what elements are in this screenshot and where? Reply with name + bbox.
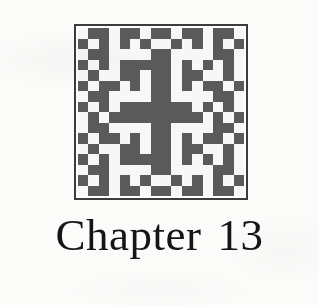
fractal-cell bbox=[88, 133, 98, 144]
fractal-cell bbox=[78, 144, 88, 155]
fractal-cell bbox=[99, 154, 109, 165]
fractal-cell bbox=[109, 165, 119, 176]
fractal-cell bbox=[223, 91, 233, 102]
fractal-cell bbox=[151, 81, 161, 92]
fractal-cell bbox=[192, 144, 202, 155]
fractal-cell bbox=[140, 91, 150, 102]
fractal-cell bbox=[213, 60, 223, 71]
fractal-cell bbox=[182, 39, 192, 50]
fractal-cell bbox=[109, 144, 119, 155]
fractal-cell bbox=[213, 49, 223, 60]
fractal-cell bbox=[182, 102, 192, 113]
fractal-cell bbox=[171, 112, 181, 123]
fractal-cell bbox=[192, 154, 202, 165]
fractal-cell bbox=[130, 49, 140, 60]
fractal-cell bbox=[213, 70, 223, 81]
fractal-cell bbox=[120, 70, 130, 81]
fractal-cell bbox=[203, 81, 213, 92]
fractal-cell bbox=[223, 186, 233, 197]
fractal-cell bbox=[182, 91, 192, 102]
fractal-cell bbox=[151, 123, 161, 134]
fractal-cell bbox=[192, 39, 202, 50]
fractal-cell bbox=[78, 165, 88, 176]
fractal-cell bbox=[99, 28, 109, 39]
fractal-cell bbox=[140, 175, 150, 186]
fractal-cell bbox=[140, 28, 150, 39]
fractal-cell bbox=[223, 144, 233, 155]
fractal-cell bbox=[171, 123, 181, 134]
fractal-cell bbox=[161, 112, 171, 123]
fractal-cell bbox=[171, 49, 181, 60]
fractal-cell bbox=[130, 112, 140, 123]
fractal-cell bbox=[120, 91, 130, 102]
fractal-cell bbox=[234, 144, 244, 155]
fractal-cell bbox=[151, 186, 161, 197]
fractal-cell bbox=[203, 165, 213, 176]
fractal-cell bbox=[234, 133, 244, 144]
fractal-cell bbox=[171, 81, 181, 92]
chapter-opening-figure bbox=[74, 24, 248, 200]
fractal-cell bbox=[78, 154, 88, 165]
fractal-cell bbox=[130, 28, 140, 39]
fractal-cell bbox=[140, 81, 150, 92]
fractal-cell bbox=[120, 186, 130, 197]
fractal-cell bbox=[99, 144, 109, 155]
fractal-cell bbox=[99, 49, 109, 60]
fractal-cell bbox=[192, 49, 202, 60]
fractal-cell bbox=[234, 91, 244, 102]
fractal-cell bbox=[109, 28, 119, 39]
fractal-cell bbox=[161, 70, 171, 81]
fractal-cell bbox=[223, 165, 233, 176]
fractal-cell bbox=[192, 186, 202, 197]
fractal-cell bbox=[223, 123, 233, 134]
fractal-cell bbox=[234, 112, 244, 123]
fractal-cell bbox=[78, 112, 88, 123]
fractal-cell bbox=[88, 28, 98, 39]
fractal-cell bbox=[130, 91, 140, 102]
fractal-cell bbox=[223, 60, 233, 71]
fractal-cell bbox=[171, 133, 181, 144]
fractal-cell bbox=[161, 60, 171, 71]
fractal-cell bbox=[171, 154, 181, 165]
fractal-cell bbox=[151, 154, 161, 165]
fractal-cell bbox=[223, 154, 233, 165]
fractal-cell bbox=[213, 165, 223, 176]
fractal-cell bbox=[203, 60, 213, 71]
fractal-cell bbox=[140, 112, 150, 123]
fractal-cell bbox=[99, 133, 109, 144]
fractal-cell bbox=[171, 39, 181, 50]
fractal-cell bbox=[151, 49, 161, 60]
fractal-cell bbox=[151, 39, 161, 50]
fractal-cell bbox=[78, 81, 88, 92]
fractal-cell bbox=[182, 165, 192, 176]
fractal-cell bbox=[213, 144, 223, 155]
fractal-cell bbox=[192, 60, 202, 71]
fractal-cell bbox=[192, 165, 202, 176]
fractal-cell bbox=[78, 70, 88, 81]
fractal-cell bbox=[78, 123, 88, 134]
fractal-cell bbox=[151, 175, 161, 186]
fractal-cell bbox=[192, 112, 202, 123]
fractal-cell bbox=[182, 123, 192, 134]
fractal-cell bbox=[140, 60, 150, 71]
fractal-cell bbox=[171, 165, 181, 176]
fractal-cell bbox=[213, 186, 223, 197]
fractal-cell bbox=[120, 81, 130, 92]
fractal-cell bbox=[130, 81, 140, 92]
fractal-cell bbox=[203, 123, 213, 134]
fractal-cell bbox=[203, 133, 213, 144]
fractal-cell bbox=[213, 112, 223, 123]
fractal-cell bbox=[120, 102, 130, 113]
fractal-cell bbox=[130, 154, 140, 165]
fractal-cell bbox=[99, 186, 109, 197]
fractal-cell bbox=[140, 144, 150, 155]
fractal-cell bbox=[234, 175, 244, 186]
fractal-cell bbox=[109, 81, 119, 92]
fractal-cell bbox=[161, 102, 171, 113]
fractal-cell bbox=[203, 175, 213, 186]
fractal-cell bbox=[78, 39, 88, 50]
chapter-title: Chapter13 bbox=[0, 206, 319, 264]
fractal-cell bbox=[182, 144, 192, 155]
fractal-cell bbox=[161, 49, 171, 60]
fractal-cell bbox=[99, 60, 109, 71]
